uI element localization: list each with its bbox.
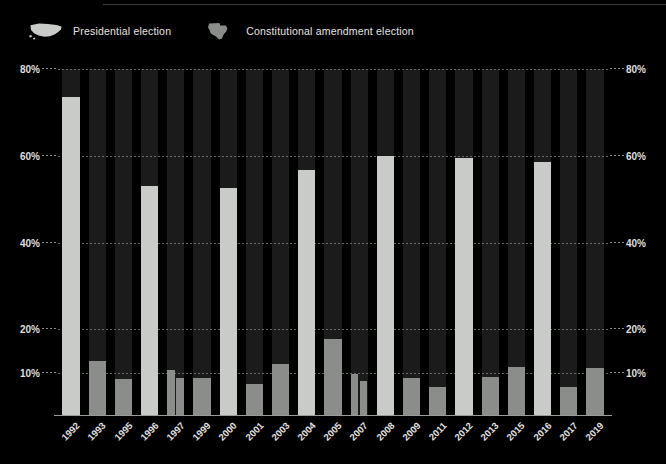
x-axis-label-1995: 1995 bbox=[112, 420, 135, 443]
x-axis-label-2008: 2008 bbox=[374, 420, 397, 443]
x-axis-label-1996: 1996 bbox=[138, 420, 161, 443]
x-axis-label-2001: 2001 bbox=[243, 420, 266, 443]
bar-2013[interactable] bbox=[482, 377, 499, 416]
bar-2007-a[interactable] bbox=[351, 374, 359, 416]
bar-1996[interactable] bbox=[141, 186, 158, 416]
bar-2005[interactable] bbox=[324, 339, 341, 416]
y-tick-right bbox=[610, 68, 624, 69]
y-tick-left bbox=[42, 155, 56, 156]
bar-1992[interactable] bbox=[62, 97, 79, 416]
y-tick-left bbox=[42, 68, 56, 69]
bar-2008[interactable] bbox=[377, 156, 394, 416]
y-axis-label-right: 20% bbox=[626, 324, 646, 335]
bar-2000[interactable] bbox=[220, 188, 237, 416]
x-axis-labels: 1992199319951996199719992000200120032004… bbox=[58, 420, 608, 464]
x-axis-label-2005: 2005 bbox=[321, 420, 344, 443]
x-axis-label-2011: 2011 bbox=[426, 420, 448, 442]
y-axis-label-left: 80% bbox=[20, 64, 40, 75]
header-divider bbox=[103, 4, 666, 5]
y-axis-label-right: 80% bbox=[626, 64, 646, 75]
texas-map-icon bbox=[201, 21, 237, 41]
bar-1997-a[interactable] bbox=[167, 370, 175, 416]
bar-2015[interactable] bbox=[508, 367, 525, 416]
y-axis-label-left: 40% bbox=[20, 237, 40, 248]
y-axis-label-right: 10% bbox=[626, 367, 646, 378]
bar-2003[interactable] bbox=[272, 364, 289, 416]
x-axis-label-2003: 2003 bbox=[269, 420, 292, 443]
y-axis-label-left: 10% bbox=[20, 367, 40, 378]
y-tick-right bbox=[610, 242, 624, 243]
x-axis-label-2015: 2015 bbox=[505, 420, 528, 443]
bar-1997-b[interactable] bbox=[176, 378, 184, 416]
us-map-icon bbox=[28, 21, 64, 41]
y-axis-label-left: 60% bbox=[20, 150, 40, 161]
y-tick-left bbox=[42, 328, 56, 329]
x-axis-label-2000: 2000 bbox=[216, 420, 239, 443]
plot-area: 10%10%20%20%40%40%60%60%80%80% bbox=[58, 69, 608, 416]
y-tick-left bbox=[42, 242, 56, 243]
bar-1993[interactable] bbox=[89, 361, 106, 416]
y-axis-label-left: 20% bbox=[20, 324, 40, 335]
chart-legend: Presidential election Constitutional ame… bbox=[28, 20, 444, 42]
bar-2004[interactable] bbox=[298, 170, 315, 416]
bar-1999[interactable] bbox=[193, 378, 210, 416]
bar-2012[interactable] bbox=[455, 158, 472, 416]
bar-2001[interactable] bbox=[246, 384, 263, 416]
legend-item-constitutional[interactable]: Constitutional amendment election bbox=[201, 21, 414, 41]
bar-2017[interactable] bbox=[560, 387, 577, 416]
x-axis-label-2004: 2004 bbox=[295, 420, 318, 443]
x-axis-label-1993: 1993 bbox=[85, 420, 108, 443]
x-axis-baseline bbox=[54, 415, 612, 416]
x-axis-label-2017: 2017 bbox=[557, 420, 580, 443]
x-axis-label-2012: 2012 bbox=[452, 420, 475, 443]
y-tick-left bbox=[42, 372, 56, 373]
x-axis-label-2009: 2009 bbox=[400, 420, 423, 443]
bar-2009[interactable] bbox=[403, 378, 420, 416]
y-axis-label-right: 40% bbox=[626, 237, 646, 248]
x-axis-label-2019: 2019 bbox=[583, 420, 606, 443]
x-axis-label-2007: 2007 bbox=[347, 420, 370, 443]
y-axis-label-right: 60% bbox=[626, 150, 646, 161]
bar-2019[interactable] bbox=[586, 368, 603, 416]
x-axis-label-1997: 1997 bbox=[164, 420, 187, 443]
x-axis-label-2016: 2016 bbox=[531, 420, 554, 443]
gridline bbox=[58, 156, 608, 157]
x-axis-label-2013: 2013 bbox=[478, 420, 501, 443]
bar-2016[interactable] bbox=[534, 162, 551, 416]
x-axis-label-1999: 1999 bbox=[190, 420, 213, 443]
bar-2007-b[interactable] bbox=[360, 381, 368, 416]
bar-1995[interactable] bbox=[115, 379, 132, 416]
x-axis-label-1992: 1992 bbox=[59, 420, 82, 443]
gridline bbox=[58, 69, 608, 70]
legend-item-presidential[interactable]: Presidential election bbox=[28, 21, 171, 41]
bar-2011[interactable] bbox=[429, 387, 446, 416]
chart-root: Presidential election Constitutional ame… bbox=[0, 0, 666, 464]
y-tick-right bbox=[610, 372, 624, 373]
y-tick-right bbox=[610, 328, 624, 329]
y-tick-right bbox=[610, 155, 624, 156]
legend-label-presidential: Presidential election bbox=[73, 25, 171, 37]
legend-label-constitutional: Constitutional amendment election bbox=[246, 25, 414, 37]
